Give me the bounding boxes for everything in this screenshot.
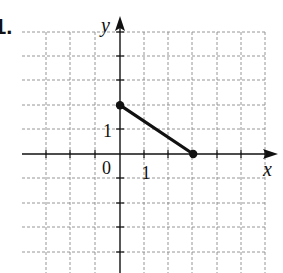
problem-number: 1. [0,14,12,40]
axis-ticks [46,32,265,252]
x-axis-label: x [262,158,272,180]
y-tick-label-1: 1 [103,121,112,141]
y-axis-label: y [99,14,110,37]
segment-line [120,105,193,154]
line-segment [116,101,198,158]
origin-label: 0 [102,158,111,178]
coordinate-plane: x y 0 1 1 [0,0,283,273]
endpoint-dot [116,101,124,109]
axes [22,16,278,273]
x-tick-label-1: 1 [141,163,150,183]
endpoint-dot [189,150,197,158]
coordinate-plane-figure: 1. x y 0 1 1 [0,0,283,273]
